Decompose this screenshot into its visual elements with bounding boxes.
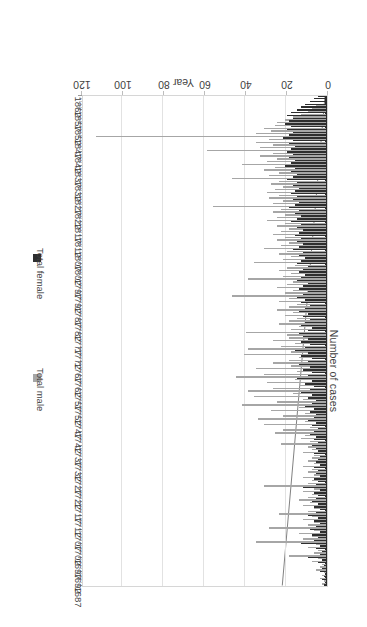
- bar-total-female: [320, 571, 326, 572]
- bar-total-female: [297, 241, 326, 242]
- rotated-figure-wrapper: Number of cases Year 020406080100120 168…: [0, 0, 367, 627]
- value-tick-label-100: 100: [103, 79, 143, 91]
- bar-total-female: [312, 372, 326, 373]
- bar-total-female: [295, 350, 326, 351]
- bar-total-female: [299, 246, 326, 247]
- bar-total-female: [310, 101, 326, 102]
- bar-total-female: [299, 364, 326, 365]
- bar-total-female: [289, 120, 326, 121]
- bar-total-female: [297, 378, 326, 379]
- bar-total-female: [318, 450, 326, 451]
- bar-total-female: [314, 453, 326, 454]
- bar-total-female: [299, 288, 326, 289]
- value-tick-mark-100: [122, 91, 123, 95]
- bar-total-female: [289, 143, 326, 144]
- bar-total-female: [314, 431, 326, 432]
- bar-total-female: [301, 341, 326, 342]
- bar-total-female: [293, 199, 326, 200]
- bar-total-female: [303, 487, 326, 488]
- bar-total-female: [322, 579, 326, 580]
- value-tick-label-80: 80: [144, 79, 184, 91]
- bar-total-female: [303, 336, 326, 337]
- bar-total-female: [299, 255, 326, 256]
- bar-total-female: [303, 294, 326, 295]
- bar-total-female: [299, 271, 326, 272]
- y-axis-title: Number of cases: [328, 276, 340, 466]
- bar-total-female: [301, 392, 326, 393]
- bar-total-female: [299, 311, 326, 312]
- bar-total-female: [308, 397, 326, 398]
- bar-total-female: [318, 481, 326, 482]
- bar-total-female: [293, 185, 326, 186]
- bar-total-female: [320, 475, 326, 476]
- bar-total-female: [291, 171, 326, 172]
- value-tick-mark-40: [245, 91, 246, 95]
- bar-total-female: [291, 112, 326, 113]
- value-tick-mark-60: [204, 91, 205, 95]
- bar-total-female: [293, 118, 326, 119]
- bar-total-female: [312, 327, 326, 328]
- bar-total-male: [324, 580, 326, 581]
- bar-total-female: [287, 129, 326, 130]
- bar-total-female: [316, 414, 326, 415]
- bar-total-female: [318, 503, 326, 504]
- bar-total-female: [297, 182, 326, 183]
- bar-total-female: [316, 548, 326, 549]
- bar-total-female: [308, 515, 326, 516]
- bar-total-female: [314, 439, 326, 440]
- bar-total-female: [322, 559, 326, 560]
- bar-total-female: [316, 448, 326, 449]
- value-tick-label-60: 60: [185, 79, 225, 91]
- bar-total-female: [324, 585, 326, 586]
- bar-total-female: [306, 347, 327, 348]
- bar-total-female: [295, 168, 326, 169]
- bar-total-female: [303, 316, 326, 317]
- gridline-60: [203, 96, 204, 586]
- bar-total-female: [314, 98, 326, 99]
- legend-item-total-male[interactable]: Total male: [5, 286, 67, 382]
- bar-total-female: [295, 204, 326, 205]
- bar-total-female: [310, 344, 326, 345]
- bar-total-female: [310, 319, 326, 320]
- bar-total-female: [289, 157, 326, 158]
- legend-item-total-female[interactable]: Total female: [5, 166, 67, 262]
- legend-label-total-male: Total male: [35, 368, 46, 411]
- bar-total-female: [310, 305, 326, 306]
- bar-total-female: [287, 151, 326, 152]
- value-tick-mark-20: [286, 91, 287, 95]
- bar-total-female: [320, 554, 326, 555]
- bar-total-female: [295, 190, 326, 191]
- bar-total-female: [312, 380, 326, 381]
- bar-total-female: [291, 162, 326, 163]
- bar-total-female: [301, 543, 326, 544]
- bar-total-female: [301, 224, 326, 225]
- bar-total-female: [314, 540, 326, 541]
- plot-area: [82, 95, 328, 587]
- bar-total-female: [318, 537, 326, 538]
- bar-total-female: [285, 165, 326, 166]
- bar-total-female: [306, 308, 327, 309]
- bar-total-female: [312, 534, 326, 535]
- bar-total-female: [314, 417, 326, 418]
- bar-total-female: [320, 456, 326, 457]
- bar-total-female: [316, 512, 326, 513]
- bar-total-female: [299, 188, 326, 189]
- bar-total-female: [291, 126, 326, 127]
- bar-total-female: [316, 400, 326, 401]
- bar-total-female: [293, 249, 326, 250]
- bar-total-female: [303, 243, 326, 244]
- bar-total-female: [308, 330, 326, 331]
- bar-total-female: [301, 106, 326, 107]
- bar-total-female: [320, 489, 326, 490]
- bar-total-female: [303, 369, 326, 370]
- gridline-80: [162, 96, 163, 586]
- bar-total-female: [312, 425, 326, 426]
- bar-total-female: [306, 322, 327, 323]
- bar-total-female: [289, 207, 326, 208]
- bar-total-female: [318, 442, 326, 443]
- bar-total-male: [324, 572, 326, 573]
- bar-total-female: [306, 257, 327, 258]
- bar-total-female: [324, 576, 326, 577]
- bar-total-female: [314, 408, 326, 409]
- bar-total-female: [297, 227, 326, 228]
